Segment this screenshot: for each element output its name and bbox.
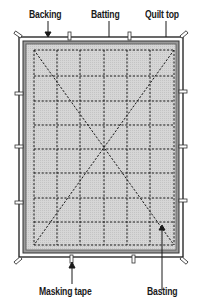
label-quilt-top: Quilt top [145, 8, 179, 20]
label-masking-tape: Masking tape [39, 285, 92, 297]
label-basting: Basting [147, 285, 177, 297]
quilt-top-layer [26, 44, 176, 250]
label-backing: Backing [29, 8, 61, 20]
diagram-canvas [0, 0, 202, 308]
label-batting: Batting [91, 8, 120, 20]
